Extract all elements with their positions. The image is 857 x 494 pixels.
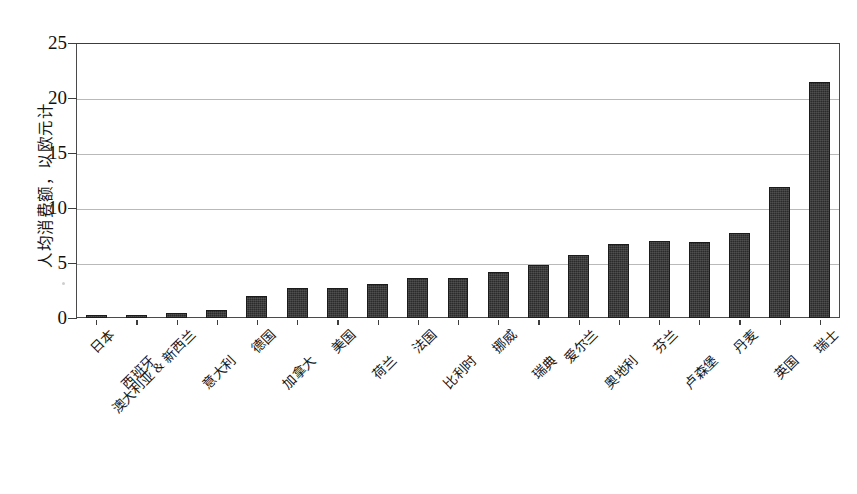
x-tick-mark [699,320,700,325]
bars-group [76,43,840,318]
x-tick-mark [418,320,419,325]
x-tick-label: 芬兰 [648,324,681,357]
bar [608,244,629,318]
bar [448,278,469,318]
bar [729,233,750,318]
x-tick-mark [659,320,660,325]
x-tick-mark [538,320,539,325]
bar [86,315,107,318]
bar [407,278,428,318]
x-tick-mark [820,320,821,325]
bar-chart: 人均消费额，以欧元计 0510152025 日本西班牙澳大利亚 & 新西兰意大利… [0,0,857,494]
bar [528,265,549,318]
x-tick-label: 奥地利 [599,350,641,392]
y-tick-label: 20 [7,88,67,107]
x-tick-label: 日本 [85,324,118,357]
bar [809,82,830,319]
y-tick-label: 0 [7,308,67,327]
x-tick-label: 丹麦 [729,324,762,357]
x-tick-mark [458,320,459,325]
x-tick-label: 爱尔兰 [558,324,600,366]
y-tick-label: 15 [7,143,67,162]
y-tick-label: 25 [7,33,67,52]
x-tick-label: 瑞典 [528,350,561,383]
x-tick-mark [739,320,740,325]
x-axis: 日本西班牙澳大利亚 & 新西兰意大利德国加拿大美国荷兰法国比利时挪威瑞典爱尔兰奥… [76,320,840,470]
x-tick-mark [217,320,218,325]
bar [769,187,790,318]
x-tick-label: 比利时 [438,350,480,392]
bar [689,242,710,318]
bar [126,315,147,318]
x-tick-label: 挪威 [487,324,520,357]
x-tick-mark [579,320,580,325]
x-tick-mark [297,320,298,325]
bar [488,272,509,318]
x-tick-mark [378,320,379,325]
x-tick-label: 法国 [407,324,440,357]
bar [287,288,308,318]
x-tick-label: 澳大利亚 & 新西兰 [106,324,199,417]
x-tick-mark [619,320,620,325]
x-tick-label: 意大利 [197,350,239,392]
bar [246,296,267,318]
scan-artifact [62,282,65,285]
x-tick-mark [96,320,97,325]
y-tick-label: 10 [7,198,67,217]
x-tick-label: 德国 [246,324,279,357]
x-tick-label: 英国 [769,350,802,383]
x-tick-label: 美国 [327,324,360,357]
x-tick-mark [136,320,137,325]
x-tick-mark [337,320,338,325]
x-tick-mark [177,320,178,325]
bar [206,310,227,318]
bar [568,255,589,318]
x-tick-label: 卢森堡 [679,350,721,392]
x-tick-label: 荷兰 [367,350,400,383]
x-tick-label: 瑞士 [809,324,842,357]
y-tick-label: 5 [7,253,67,272]
bar [327,288,348,318]
bar [367,284,388,318]
x-tick-label: 加拿大 [277,350,319,392]
x-tick-mark [498,320,499,325]
bar [649,241,670,318]
bar [166,313,187,319]
x-tick-mark [780,320,781,325]
x-tick-mark [257,320,258,325]
